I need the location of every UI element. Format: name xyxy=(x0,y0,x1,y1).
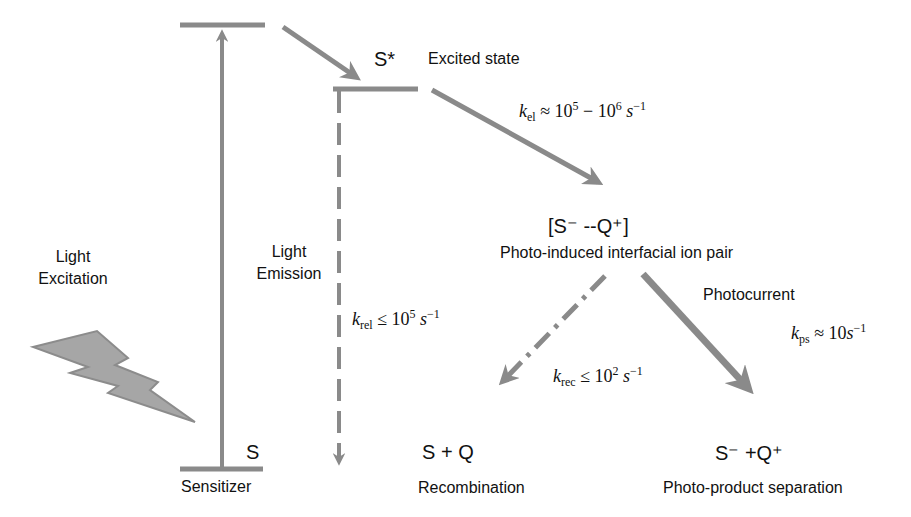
rate-k-symbol: k xyxy=(352,309,360,329)
light-emission-line2: Emission xyxy=(246,263,332,285)
rate-subscript: rel xyxy=(360,318,373,332)
light-excitation-label: Light Excitation xyxy=(18,246,128,290)
sensitizer-label: Sensitizer xyxy=(181,478,251,496)
recombination-label: Recombination xyxy=(418,479,525,497)
rate-unit-exponent: −1 xyxy=(630,364,643,378)
ground-state-symbol: S xyxy=(246,441,259,464)
rate-unit: s xyxy=(847,323,854,343)
rate-relation: ≈ 10 xyxy=(810,323,847,343)
rate-k-rec: krec ≤ 102 s−1 xyxy=(553,364,643,390)
rate-unit-exponent: −1 xyxy=(427,307,440,321)
rate-unit-exponent: −1 xyxy=(633,99,646,113)
rate-k-symbol: k xyxy=(553,366,561,386)
rate-k-symbol: k xyxy=(519,101,527,121)
rate-unit-exponent: −1 xyxy=(854,321,867,335)
separation-symbol: S⁻ +Q⁺ xyxy=(715,441,783,465)
relaxation-arrow xyxy=(283,27,356,77)
rate-relation: ≤ 10 xyxy=(373,309,410,329)
light-excitation-line1: Light xyxy=(18,246,128,268)
light-emission-line1: Light xyxy=(246,241,332,263)
excited-state-symbol: S* xyxy=(374,48,395,71)
rate-k-symbol: k xyxy=(791,323,799,343)
rate-subscript: el xyxy=(527,110,536,124)
rate-relation: ≤ 10 xyxy=(576,366,613,386)
rate-k-ps: kps ≈ 10s−1 xyxy=(791,321,866,347)
rate-unit: s xyxy=(622,101,634,121)
ion-pair-label: Photo-induced interfacial ion pair xyxy=(500,244,733,262)
lightning-bolt-icon xyxy=(33,331,195,422)
separation-label: Photo-product separation xyxy=(663,479,843,497)
rate-mid: − 10 xyxy=(579,101,616,121)
rate-k-rel: krel ≤ 105 s−1 xyxy=(352,307,440,333)
excited-state-label: Excited state xyxy=(428,50,520,68)
rate-k-el: kel ≈ 105 − 106 s−1 xyxy=(519,99,646,125)
light-emission-label: Light Emission xyxy=(246,241,332,285)
energy-diagram-graphics xyxy=(0,0,911,517)
recombination-symbol: S + Q xyxy=(422,441,474,464)
rate-unit: s xyxy=(416,309,428,329)
photocurrent-label: Photocurrent xyxy=(703,286,795,304)
rate-unit: s xyxy=(619,366,631,386)
rate-subscript: ps xyxy=(799,332,810,346)
rate-relation: ≈ 10 xyxy=(536,101,573,121)
rate-subscript: rec xyxy=(561,375,576,389)
light-excitation-line2: Excitation xyxy=(18,268,128,290)
ion-pair-symbol: [S⁻ --Q⁺] xyxy=(548,214,629,238)
